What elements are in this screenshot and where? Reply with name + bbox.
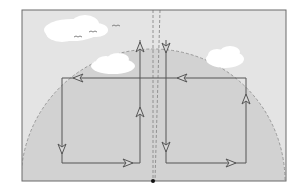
- convection-diagram: [0, 0, 300, 194]
- origin-dot: [151, 179, 155, 183]
